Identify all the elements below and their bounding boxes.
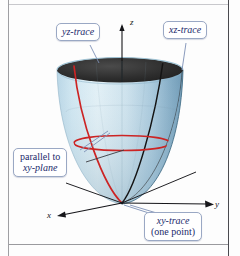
paraboloid-figure: yz-trace xz-trace parallel to xy-plane x… (0, 0, 240, 256)
axis-label-z: z (130, 17, 134, 27)
axis-label-y: y (215, 199, 219, 209)
callout-xz-trace[interactable]: xz-trace (163, 21, 207, 39)
origin-point (121, 202, 124, 205)
callout-xy-trace-line1: xy-trace (151, 215, 195, 226)
callout-yz-trace[interactable]: yz-trace (56, 23, 100, 41)
callout-yz-trace-label: yz-trace (62, 26, 94, 37)
callout-xy-trace-line2: (one point) (151, 226, 195, 237)
axis-x (57, 203, 122, 218)
callout-parallel-line1: parallel to (20, 151, 60, 162)
callout-parallel-to-xy-plane[interactable]: parallel to xy-plane (13, 148, 67, 177)
callout-parallel-line2: xy-plane (20, 162, 60, 173)
paraboloid-surface (57, 70, 183, 204)
callout-xy-trace[interactable]: xy-trace (one point) (144, 212, 202, 241)
callout-xz-trace-label: xz-trace (169, 24, 201, 35)
axis-label-x: x (47, 210, 51, 220)
